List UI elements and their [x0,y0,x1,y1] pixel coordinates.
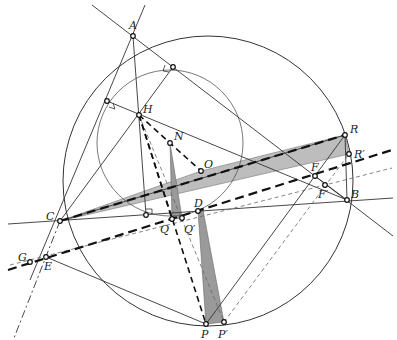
point-R [343,133,348,138]
point-O [199,169,204,174]
label-Q: Q [160,223,169,236]
point-P [204,322,209,327]
label-R-prime: R′ [353,148,365,161]
right-angle-marker-AB [163,65,169,72]
label-D: D [193,197,203,210]
point-footAB [171,65,176,70]
geometry-diagram: A H N O R R′ F F′ B C D Q Q′ E G P P′ [0,0,397,340]
point-footAC [105,99,110,104]
point-A [131,34,136,39]
point-E [44,255,49,260]
point-Q-prime [180,216,185,221]
point-P-prime [222,320,227,325]
point-R-prime [347,152,352,157]
light-dash-Pprime-Rprime [224,154,349,322]
point-Q [170,217,175,222]
line-CE [14,221,60,338]
label-F-prime: F′ [317,188,329,201]
point-C [58,219,63,224]
label-P: P [200,328,209,340]
label-C: C [46,210,55,223]
diagram-canvas: A H N O R R′ F F′ B C D Q Q′ E G P P′ [0,0,397,340]
altitude-from-A [133,36,146,215]
line-AC-extended [30,5,145,280]
label-F: F [310,161,319,174]
label-B: B [350,188,359,201]
label-G: G [18,251,27,264]
label-H: H [142,103,153,116]
point-H [137,113,142,118]
label-R: R [349,123,358,136]
label-P-prime: P′ [217,328,228,340]
shaded-triangle-D [198,210,224,324]
line-E-to-P [46,257,206,324]
point-B [345,198,350,203]
label-N: N [173,130,184,143]
point-F [313,174,318,179]
label-O: O [204,158,213,171]
label-Q-prime: Q′ [184,223,196,236]
point-G [28,260,33,265]
point-F-prime [323,183,328,188]
label-A: A [128,19,137,32]
label-E: E [43,260,52,273]
point-footBC [144,213,149,218]
point-N [168,141,173,146]
